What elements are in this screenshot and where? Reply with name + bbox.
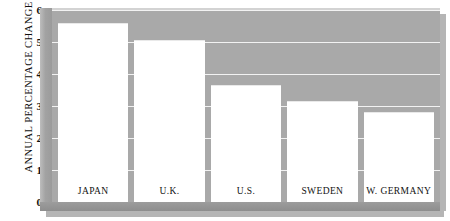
plot-area: JAPANU.K.U.S.SWEDENW. GERMANY: [52, 10, 440, 202]
y-axis-tick-0: 0: [22, 197, 42, 208]
y-axis-tick-6: 6: [22, 5, 42, 16]
plot-shadow-bottom: [46, 211, 444, 217]
y-axis-tick-1: 1: [22, 165, 42, 176]
y-axis-tick-3: 3: [22, 101, 42, 112]
bar-sweden[interactable]: SWEDEN: [287, 101, 357, 202]
bar-label: U.S.: [211, 186, 281, 196]
bar-chart: ANNUAL PERCENTAGE CHANGE 6543210 JAPANU.…: [0, 0, 450, 221]
bar-label: W. GERMANY: [364, 186, 434, 196]
bar-label: SWEDEN: [287, 186, 357, 196]
y-axis-tick-2: 2: [22, 133, 42, 144]
x-axis-band: [40, 202, 440, 211]
y-axis-tick-5: 5: [22, 37, 42, 48]
bar-u-s[interactable]: U.S.: [211, 85, 281, 202]
gridline-6: [52, 10, 440, 11]
y-axis-band: [40, 8, 52, 209]
bar-label: U.K.: [134, 186, 204, 196]
bar-u-k[interactable]: U.K.: [134, 40, 204, 202]
plot-shadow-right: [440, 14, 446, 211]
bar-w-germany[interactable]: W. GERMANY: [364, 112, 434, 202]
y-axis-tick-4: 4: [22, 69, 42, 80]
y-axis-tick-labels: 6543210: [22, 0, 42, 221]
bar-japan[interactable]: JAPAN: [58, 23, 128, 202]
bar-label: JAPAN: [58, 186, 128, 196]
